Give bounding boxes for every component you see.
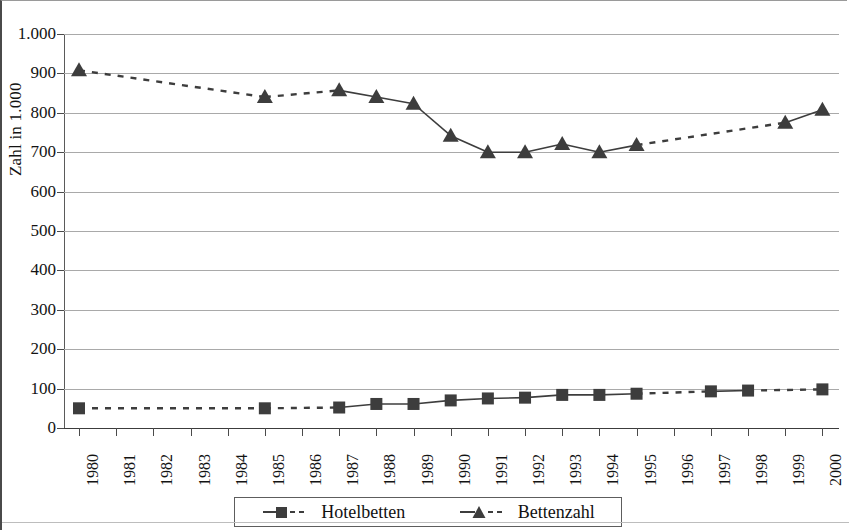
x-axis-tick-label: 1987 <box>345 454 361 486</box>
y-axis-tick-label: 500 <box>4 222 56 239</box>
x-axis-tick-label: 2000 <box>828 454 844 486</box>
legend-swatch-square-icon <box>261 504 313 520</box>
y-axis-tick-label: 0 <box>4 419 56 436</box>
y-axis-tick-label: 600 <box>4 183 56 200</box>
x-axis-tick-label: 1984 <box>234 454 250 486</box>
y-axis-tick <box>57 349 64 350</box>
series-bettenzahl <box>71 62 830 158</box>
x-axis-tick <box>191 428 192 436</box>
x-axis-tick-label: 1980 <box>85 454 101 486</box>
legend-item-hotelbetten[interactable]: Hotelbetten <box>261 502 405 523</box>
y-axis-tick <box>57 73 64 74</box>
x-axis-tick-label: 1994 <box>605 454 621 486</box>
y-axis-tick <box>57 231 64 232</box>
y-axis-tick <box>57 428 64 429</box>
data-point-marker-square[interactable] <box>445 394 457 406</box>
x-axis-tick-label: 1999 <box>791 454 807 486</box>
y-axis-tick <box>57 192 64 193</box>
x-axis-tick <box>525 428 526 436</box>
y-axis-tick <box>57 34 64 35</box>
data-point-marker-square[interactable] <box>705 385 717 397</box>
x-axis-tick-label: 1993 <box>568 454 584 486</box>
x-axis-tick-label: 1991 <box>494 454 510 486</box>
legend-swatch-triangle-icon <box>458 504 510 520</box>
data-point-marker-square[interactable] <box>631 388 643 400</box>
data-point-marker-triangle[interactable] <box>71 62 87 76</box>
data-point-marker-square[interactable] <box>73 402 85 414</box>
x-axis-tick-label: 1983 <box>197 454 213 486</box>
y-axis-tick-label: 700 <box>4 143 56 160</box>
x-axis-tick-label: 1992 <box>531 454 547 486</box>
x-axis-tick-label: 1981 <box>122 454 138 486</box>
x-axis-tick <box>637 428 638 436</box>
data-point-marker-square[interactable] <box>742 385 754 397</box>
x-axis-tick-label: 1998 <box>754 454 770 486</box>
x-axis-tick <box>414 428 415 436</box>
x-axis-tick-label: 1990 <box>457 454 473 486</box>
footer-divider <box>2 522 849 523</box>
data-point-marker-square[interactable] <box>556 389 568 401</box>
data-point-marker-square[interactable] <box>519 392 531 404</box>
series-segment <box>637 123 786 145</box>
x-axis-tick <box>79 428 80 436</box>
x-axis-tick-label: 1986 <box>308 454 324 486</box>
y-axis-tick-label: 200 <box>4 340 56 357</box>
data-point-marker-square[interactable] <box>333 402 345 414</box>
y-axis-tick <box>57 270 64 271</box>
data-point-marker-triangle[interactable] <box>814 102 830 116</box>
x-axis-tick-label: 1997 <box>717 454 733 486</box>
data-point-marker-square[interactable] <box>259 402 271 414</box>
data-point-marker-triangle[interactable] <box>777 115 793 129</box>
x-axis-tick <box>451 428 452 436</box>
x-axis-tick-label: 1982 <box>159 454 175 486</box>
x-axis-tick <box>748 428 749 436</box>
data-point-marker-square[interactable] <box>482 392 494 404</box>
x-axis-tick <box>116 428 117 436</box>
y-axis-tick-label: 900 <box>4 64 56 81</box>
x-axis-tick-label: 1988 <box>382 454 398 486</box>
legend-label-hotelbetten: Hotelbetten <box>318 502 405 523</box>
series-segment <box>637 391 711 393</box>
x-axis-tick-label: 1985 <box>271 454 287 486</box>
series-segment <box>748 389 822 390</box>
y-axis-tick-label: 1.000 <box>4 25 56 42</box>
x-axis-tick-label: 1996 <box>680 454 696 486</box>
x-axis-tick <box>228 428 229 436</box>
legend-label-bettenzahl: Bettenzahl <box>515 502 595 523</box>
y-axis-tick-label: 800 <box>4 104 56 121</box>
legend-item-bettenzahl[interactable]: Bettenzahl <box>458 502 595 523</box>
x-axis-tick <box>562 428 563 436</box>
data-point-marker-square[interactable] <box>816 383 828 395</box>
x-axis-tick-label: 1989 <box>420 454 436 486</box>
data-point-marker-square[interactable] <box>593 389 605 401</box>
x-axis-tick <box>822 428 823 436</box>
x-axis-tick <box>488 428 489 436</box>
series-hotelbetten <box>73 383 828 414</box>
y-axis-tick <box>57 389 64 390</box>
data-point-marker-triangle[interactable] <box>443 128 459 142</box>
x-axis-tick <box>785 428 786 436</box>
y-axis-tick-label: 400 <box>4 261 56 278</box>
data-point-marker-triangle[interactable] <box>480 144 496 158</box>
x-axis-tick <box>674 428 675 436</box>
data-point-marker-triangle[interactable] <box>554 136 570 150</box>
y-axis-tick-label: 100 <box>4 380 56 397</box>
x-axis-tick <box>302 428 303 436</box>
x-axis-tick <box>711 428 712 436</box>
data-series-layer <box>64 34 839 428</box>
y-axis-tick <box>57 152 64 153</box>
series-segment <box>79 70 265 97</box>
y-axis-tick <box>57 113 64 114</box>
data-point-marker-triangle[interactable] <box>331 82 347 96</box>
x-axis-tick <box>153 428 154 436</box>
series-segment <box>265 408 339 409</box>
data-point-marker-square[interactable] <box>408 398 420 410</box>
y-axis-tick-label: 300 <box>4 301 56 318</box>
x-axis-tick <box>376 428 377 436</box>
x-axis-tick <box>599 428 600 436</box>
x-axis-tick <box>339 428 340 436</box>
data-point-marker-square[interactable] <box>370 398 382 410</box>
x-axis-tick-label: 1995 <box>643 454 659 486</box>
series-segment <box>265 90 339 97</box>
